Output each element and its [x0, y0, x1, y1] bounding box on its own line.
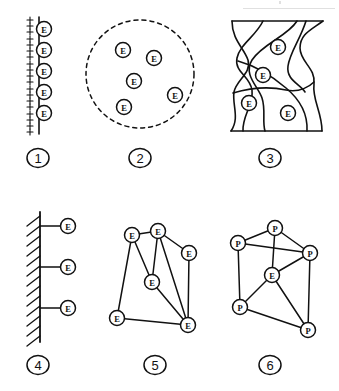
figure-canvas: E E E E E 1 — [0, 0, 339, 391]
panel-3: E E E E 3 — [215, 0, 339, 180]
grain-boundary-curve — [288, 21, 306, 92]
node-label: P — [235, 239, 240, 249]
panel-number-5: 5 — [144, 356, 166, 375]
positive-charge-row — [27, 17, 33, 135]
plus-icon — [27, 29, 33, 35]
plus-icon — [27, 54, 33, 60]
node-label: E — [285, 109, 291, 119]
electron-node: E — [151, 224, 166, 239]
electron-node: E — [242, 96, 257, 111]
panel-number-3: 3 — [259, 149, 281, 168]
node-label: E — [114, 314, 120, 324]
plus-icon — [27, 23, 33, 29]
electron-node: E — [168, 88, 183, 103]
node-label: P — [237, 303, 242, 313]
node-label: E — [65, 263, 71, 273]
plus-icon — [27, 92, 33, 98]
node-label: E — [269, 271, 275, 281]
plus-icon — [27, 36, 33, 42]
panel-5: E E E E E E 5 — [95, 195, 215, 391]
electron-node: E — [61, 260, 76, 275]
plus-icon — [27, 98, 33, 104]
node-label: E — [41, 46, 47, 56]
panel-number-label: 1 — [34, 151, 41, 166]
panel-5-graphic: E E E E E E 5 — [95, 195, 215, 391]
node-label: E — [41, 109, 47, 119]
panel-4: E E E 4 — [0, 195, 100, 391]
plus-icon — [27, 104, 33, 110]
node-label: E — [260, 71, 266, 81]
electron-node: E — [182, 246, 197, 261]
panel-number-label: 3 — [266, 151, 273, 166]
panel-2-graphic: E E E E E 2 — [80, 0, 210, 180]
electron-node: E — [147, 51, 162, 66]
node-label: E — [185, 321, 191, 331]
panel-number-label: 2 — [136, 151, 143, 166]
plus-icon — [27, 117, 33, 123]
plus-icon — [27, 79, 33, 85]
network-edge — [117, 318, 188, 325]
plus-icon — [27, 129, 33, 135]
panel-number-label: 6 — [266, 358, 273, 373]
network-edge — [152, 282, 188, 325]
panel-2: E E E E E 2 — [80, 0, 210, 180]
node-label: E — [275, 43, 281, 53]
scan-artifact — [279, 1, 281, 4]
electron-node: E — [181, 318, 196, 333]
electron-node: E — [117, 100, 132, 115]
plus-icon — [27, 73, 33, 79]
panel-number-label: 5 — [151, 358, 158, 373]
electron-node: E — [37, 106, 52, 121]
plus-icon — [27, 123, 33, 129]
wall-hatching — [27, 216, 40, 346]
electron-node: E — [125, 228, 140, 243]
panel-number-1: 1 — [27, 149, 49, 168]
node-label: E — [41, 88, 47, 98]
electron-node: E — [116, 43, 131, 58]
panel-6: P P P E P P 6 — [215, 195, 339, 391]
node-label: E — [149, 278, 155, 288]
network-edge — [308, 253, 310, 330]
dashed-boundary-circle — [86, 20, 194, 128]
network-edge — [272, 275, 308, 330]
electron-node: E — [265, 268, 280, 283]
plus-icon — [27, 17, 33, 23]
network-edge — [238, 243, 240, 307]
node-label: E — [65, 304, 71, 314]
electron-node: E — [110, 311, 125, 326]
node-label: E — [246, 99, 252, 109]
node-label: P — [272, 224, 277, 234]
network-edge — [240, 307, 308, 330]
electron-node: E — [61, 219, 76, 234]
panel-number-6: 6 — [259, 356, 281, 375]
electron-node: E — [37, 85, 52, 100]
node-label: E — [120, 46, 126, 56]
node-label: E — [172, 91, 178, 101]
panel-number-label: 4 — [34, 358, 41, 373]
proton-node: P — [268, 221, 283, 236]
plus-icon — [27, 111, 33, 117]
plus-icon — [27, 86, 33, 92]
electron-node: E — [145, 275, 160, 290]
node-label: E — [131, 77, 137, 87]
panel-number-2: 2 — [129, 149, 151, 168]
grain-right-edge — [300, 21, 323, 131]
electron-node: E — [281, 106, 296, 121]
panel-6-graphic: P P P E P P 6 — [215, 195, 339, 391]
panel-3-graphic: E E E E 3 — [215, 0, 339, 180]
node-label: E — [41, 25, 47, 35]
electron-node: E — [256, 68, 271, 83]
node-label: E — [41, 67, 47, 77]
node-label: E — [151, 54, 157, 64]
network-edge — [117, 235, 132, 318]
proton-node: P — [233, 300, 248, 315]
network-edge — [188, 253, 189, 325]
plus-icon — [27, 48, 33, 54]
proton-node: P — [231, 236, 246, 251]
electron-node: E — [37, 22, 52, 37]
node-label: E — [121, 103, 127, 113]
panel-number-4: 4 — [27, 356, 49, 375]
scan-artifact — [243, 8, 335, 9]
proton-node: P — [303, 246, 318, 261]
electron-node: E — [127, 74, 142, 89]
